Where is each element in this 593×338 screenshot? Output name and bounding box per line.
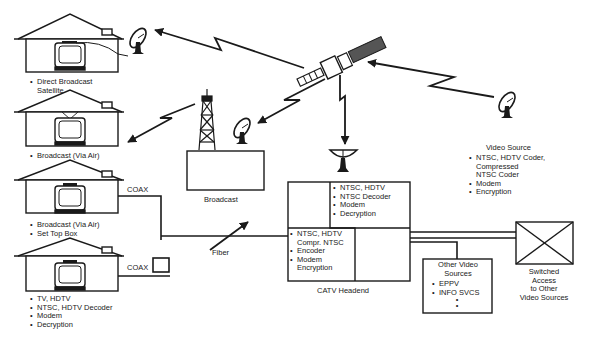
headend-lower-list: NTSC, HDTV Compr. NTSC Encoder Modem Enc… <box>290 230 344 273</box>
broadcast-label: Broadcast <box>204 196 238 205</box>
house-hdtv <box>14 238 124 291</box>
title-line: Sources <box>424 270 492 279</box>
fiber-label: Fiber <box>212 249 229 258</box>
other-sources-title: Other Video Sources <box>424 261 492 278</box>
broadcast-station-box <box>187 151 264 190</box>
coax-label-1: COAX <box>127 186 148 195</box>
house-dbs <box>14 14 128 72</box>
ellipsis-dots: • • <box>452 297 462 309</box>
dot: • <box>452 303 462 309</box>
list-item: Encryption <box>469 188 545 197</box>
video-source-dish-icon <box>496 90 518 118</box>
satellite-dish-icon <box>127 26 149 54</box>
caption-line: Direct Broadcast Satellite <box>30 78 107 95</box>
list-item: Encryption <box>290 264 344 273</box>
switched-access-box <box>516 222 573 264</box>
caption-line: Set Top Box <box>30 230 99 239</box>
caption-line: Decryption <box>30 321 112 330</box>
house-stb-caption: Broadcast (Via Air) Set Top Box <box>30 221 99 238</box>
label-line: Video Sources <box>504 294 584 303</box>
video-source-title: Video Source <box>486 144 531 153</box>
house-air <box>14 90 124 146</box>
coax-label-2: COAX <box>127 264 148 273</box>
headend-dish-icon <box>330 150 357 172</box>
broadcast-tower-icon <box>199 89 215 150</box>
video-source-list: NTSC, HDTV Coder, Compressed NTSC Coder … <box>469 154 545 197</box>
list-item: Decryption <box>333 210 391 219</box>
catv-headend-label: CATV Headend <box>317 287 369 296</box>
headend-upper-list: NTSC, HDTV NTSC Decoder Modem Decryption <box>333 184 391 218</box>
house-stb <box>14 160 124 213</box>
house-air-caption: Broadcast (Via Air) <box>30 152 99 161</box>
switched-access-label: Switched Access to Other Video Sources <box>504 268 584 302</box>
house-dbs-caption: Direct Broadcast Satellite <box>30 78 107 95</box>
house-hdtv-caption: TV, HDTV NTSC, HDTV Decoder Modem Decryp… <box>30 295 112 329</box>
caption-line: Broadcast (Via Air) <box>30 152 99 161</box>
broadcast-dish-icon <box>231 116 253 144</box>
